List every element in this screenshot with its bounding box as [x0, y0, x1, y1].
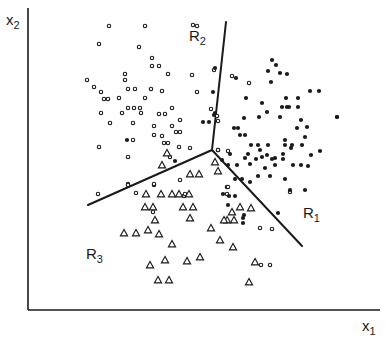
open-circle-marker — [123, 78, 126, 81]
open-circle-marker — [92, 85, 95, 88]
region-r3-text: R — [86, 245, 97, 262]
region-label-r3: R3 — [86, 246, 103, 265]
x-axis-label-subscript: 1 — [370, 325, 376, 337]
triangle-marker — [245, 278, 252, 284]
filled-dot-marker — [213, 66, 217, 70]
open-circle-marker — [152, 182, 155, 185]
filled-dot-marker — [274, 63, 278, 67]
region-label-r2: R2 — [189, 28, 206, 47]
series-filled-dot — [125, 58, 339, 225]
filled-dot-marker — [244, 96, 248, 100]
open-circle-marker — [126, 106, 129, 109]
triangle-marker — [189, 203, 196, 209]
open-circle-marker — [216, 119, 219, 122]
region-r1-subscript: 1 — [314, 212, 320, 224]
filled-dot-marker — [288, 188, 292, 192]
open-circle-marker — [230, 74, 233, 77]
filled-dot-marker — [257, 115, 261, 119]
triangle-marker — [168, 240, 175, 246]
filled-dot-marker — [318, 149, 322, 153]
filled-dot-marker — [303, 135, 307, 139]
triangle-marker — [146, 261, 153, 267]
open-circle-marker — [209, 107, 212, 110]
y-axis-label: x2 — [6, 12, 20, 31]
filled-dot-marker — [296, 96, 300, 100]
region-r2-text: R — [189, 27, 200, 44]
open-circle-marker — [126, 87, 129, 90]
triangle-marker — [132, 229, 139, 235]
filled-dot-marker — [236, 126, 240, 130]
open-circle-marker — [102, 97, 105, 100]
triangle-marker — [186, 214, 193, 220]
open-circle-marker — [120, 111, 123, 114]
filled-dot-marker — [335, 115, 339, 119]
filled-dot-marker — [173, 159, 177, 163]
open-circle-marker — [258, 226, 261, 229]
filled-dot-marker — [201, 120, 205, 124]
open-circle-marker — [178, 118, 181, 121]
filled-dot-marker — [243, 156, 247, 160]
filled-dot-marker — [260, 101, 264, 105]
filled-dot-marker — [296, 105, 300, 109]
filled-dot-marker — [291, 163, 295, 167]
filled-dot-marker — [303, 188, 307, 192]
triangle-marker — [151, 216, 158, 222]
y-axis-label-text: x — [6, 11, 14, 28]
open-circle-marker — [131, 138, 134, 141]
series-open-triangle — [120, 149, 258, 284]
filled-dot-marker — [273, 163, 277, 167]
open-circle-marker — [132, 106, 135, 109]
region-r3-subscript: 3 — [97, 253, 103, 265]
open-circle-marker — [259, 263, 262, 266]
triangle-marker — [163, 149, 170, 155]
filled-dot-marker — [276, 211, 280, 215]
filled-dot-marker — [246, 152, 250, 156]
triangle-marker — [236, 203, 243, 209]
open-circle-marker — [160, 89, 163, 92]
open-circle-marker — [149, 87, 152, 90]
open-circle-marker — [138, 106, 141, 109]
triangle-marker — [195, 170, 202, 176]
filled-dot-marker — [221, 192, 225, 196]
open-circle-marker — [108, 121, 111, 124]
filled-dot-marker — [266, 69, 270, 73]
triangle-marker — [155, 230, 162, 236]
open-circle-marker — [97, 42, 100, 45]
triangle-marker — [216, 236, 223, 242]
x-axis-label-text: x — [362, 317, 370, 334]
filled-dot-marker — [256, 174, 260, 178]
triangle-marker — [214, 167, 221, 173]
open-circle-marker — [134, 191, 137, 194]
filled-dot-marker — [306, 164, 310, 168]
open-circle-marker — [170, 124, 173, 127]
open-circle-marker — [178, 178, 181, 181]
filled-dot-marker — [295, 126, 299, 130]
open-circle-marker — [270, 227, 273, 230]
filled-dot-marker — [238, 133, 242, 137]
filled-dot-marker — [290, 143, 294, 147]
region-label-r1: R1 — [303, 205, 320, 224]
open-circle-marker — [166, 72, 169, 75]
open-circle-marker — [157, 112, 160, 115]
open-circle-marker — [162, 141, 165, 144]
filled-dot-marker — [299, 163, 303, 167]
x-axis-label: x1 — [362, 318, 376, 337]
filled-dot-marker — [269, 80, 273, 84]
triangle-marker — [144, 226, 151, 232]
y-axis-label-subscript: 2 — [14, 19, 20, 31]
decision-boundaries — [88, 22, 302, 246]
filled-dot-marker — [309, 153, 313, 157]
filled-dot-marker — [249, 143, 253, 147]
filled-dot-marker — [317, 89, 321, 93]
triangle-marker — [149, 203, 156, 209]
triangle-marker — [168, 190, 175, 196]
open-circle-marker — [123, 72, 126, 75]
open-circle-marker — [99, 90, 102, 93]
open-circle-marker — [226, 185, 229, 188]
boundary-line — [212, 150, 302, 246]
open-circle-marker — [247, 81, 250, 84]
filled-dot-marker — [233, 194, 237, 198]
open-circle-marker — [174, 130, 177, 133]
triangle-marker — [120, 229, 127, 235]
series-open-circle — [85, 23, 291, 266]
